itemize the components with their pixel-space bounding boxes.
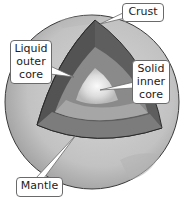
liquid-outer-core-label: Liquid outer core <box>10 40 52 84</box>
crust-label: Crust <box>122 3 164 22</box>
liquid-outer-core-line-1: Liquid <box>14 42 48 55</box>
solid-inner-core-line-1: Solid <box>136 62 166 75</box>
solid-inner-core-line-2: inner <box>136 75 166 88</box>
solid-inner-core-line-3: core <box>136 88 166 101</box>
liquid-outer-core-line-3: core <box>14 68 48 81</box>
liquid-outer-core-line-2: outer <box>14 55 48 68</box>
mantle-label: Mantle <box>16 177 63 197</box>
mantle-label-text: Mantle <box>20 179 59 192</box>
solid-inner-core-label: Solid inner core <box>132 60 170 104</box>
crust-label-text: Crust <box>126 5 160 18</box>
